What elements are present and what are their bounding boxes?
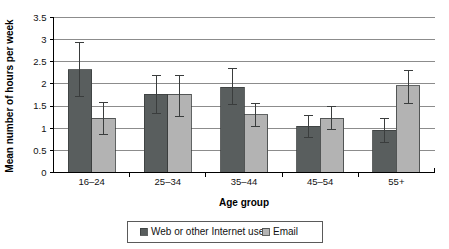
- y-tick-label: 0: [41, 167, 46, 178]
- x-axis-title: Age group: [219, 197, 269, 208]
- y-tick-label: 2.5: [33, 56, 46, 67]
- grouped-bar-chart: 00.511.522.533.5 16–2425–3435–4445–5455+…: [0, 0, 449, 249]
- y-axis-title: Mean number of hours per week: [4, 19, 15, 173]
- x-tick-label: 55+: [388, 176, 405, 187]
- y-tick-label: 2: [41, 78, 46, 89]
- legend-swatch-email: [262, 228, 269, 235]
- x-tick-label: 16–24: [78, 176, 104, 187]
- chart-figure: 00.511.522.533.5 16–2425–3435–4445–5455+…: [0, 0, 449, 249]
- legend-swatch-web: [140, 228, 147, 235]
- legend: Web or other Internet use Email: [127, 221, 322, 242]
- y-tick-label: 3: [41, 34, 46, 45]
- y-tick-label: 0.5: [33, 145, 46, 156]
- y-tick-label: 1.5: [33, 100, 46, 111]
- x-tick-label: 35–44: [231, 176, 257, 187]
- y-tick-label: 1: [41, 123, 46, 134]
- legend-label-email: Email: [273, 226, 298, 237]
- legend-label-web: Web or other Internet use: [151, 226, 265, 237]
- y-tick-label: 3.5: [33, 12, 46, 23]
- x-tick-label: 45–54: [307, 176, 333, 187]
- x-tick-label: 25–34: [155, 176, 181, 187]
